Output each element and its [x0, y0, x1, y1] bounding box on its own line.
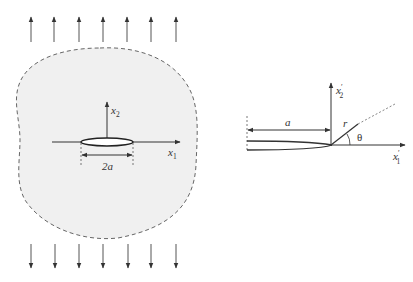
crack-ellipse: [81, 138, 133, 146]
r-label: r: [343, 117, 348, 129]
theta-label: θ: [357, 131, 362, 143]
x2-prime-label: x′2: [335, 83, 344, 100]
a-label: a: [285, 116, 291, 128]
top-stress-arrows: [31, 17, 176, 42]
theta-arc: [347, 134, 350, 145]
crack-length-label: 2a: [102, 160, 114, 172]
crack-tip-panel: a x′2 x′1 r θ: [247, 83, 405, 166]
crack-diagram: x2 x1 2a a x′2 x′1 r: [0, 0, 413, 282]
radius-extension: [358, 104, 395, 124]
bottom-stress-arrows: [31, 244, 176, 268]
x1-prime-label: x′1: [392, 149, 401, 166]
